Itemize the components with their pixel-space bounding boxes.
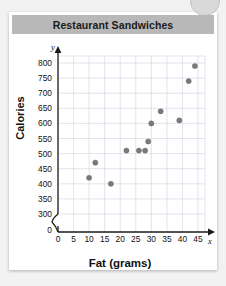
y-axis-label: Calories bbox=[14, 78, 26, 158]
plot-svg: 3003504004505005506006507007508000510152… bbox=[0, 0, 226, 286]
y-tick-label: 300 bbox=[38, 209, 52, 219]
data-point bbox=[143, 148, 148, 153]
y-tick-label: 550 bbox=[38, 134, 52, 144]
y-axis-letter: y bbox=[50, 42, 55, 52]
x-tick-label: 40 bbox=[178, 234, 188, 244]
x-tick-label: 5 bbox=[71, 234, 76, 244]
y-tick-label: 700 bbox=[38, 88, 52, 98]
axes-layer bbox=[52, 46, 215, 235]
data-point bbox=[192, 63, 197, 68]
data-point bbox=[136, 148, 141, 153]
x-tick-label: 45 bbox=[193, 234, 203, 244]
x-tick-label: 25 bbox=[131, 234, 141, 244]
tick-labels-layer: 3003504004505005506006507007508000510152… bbox=[38, 42, 212, 246]
x-tick-label: 30 bbox=[147, 234, 157, 244]
page-root: Restaurant Sandwiches 300350400450500550… bbox=[0, 0, 226, 286]
data-point bbox=[87, 175, 92, 180]
x-tick-label: 20 bbox=[116, 234, 126, 244]
y-tick-label: 750 bbox=[38, 73, 52, 83]
data-point bbox=[124, 148, 129, 153]
x-tick-label: 10 bbox=[84, 234, 94, 244]
data-point bbox=[149, 121, 154, 126]
y-tick-label: 600 bbox=[38, 118, 52, 128]
data-points-layer bbox=[87, 63, 198, 186]
y-tick-label: 650 bbox=[38, 103, 52, 113]
x-tick-label: 0 bbox=[56, 234, 61, 244]
x-tick-label: 15 bbox=[100, 234, 110, 244]
data-point bbox=[93, 160, 98, 165]
x-tick-label: 35 bbox=[162, 234, 172, 244]
y-tick-label: 350 bbox=[38, 194, 52, 204]
data-point bbox=[108, 181, 113, 186]
data-point bbox=[146, 139, 151, 144]
x-axis-label: Fat (grams) bbox=[40, 257, 200, 269]
scatter-plot: 3003504004505005506006507007508000510152… bbox=[0, 0, 226, 286]
y-tick-label: 450 bbox=[38, 164, 52, 174]
y-tick-label: 400 bbox=[38, 179, 52, 189]
y-tick-label: 800 bbox=[38, 58, 52, 68]
y-tick-label: 500 bbox=[38, 149, 52, 159]
data-point bbox=[186, 79, 191, 84]
grid-layer bbox=[58, 56, 205, 232]
data-point bbox=[177, 118, 182, 123]
data-point bbox=[158, 109, 163, 114]
x-axis-letter: x bbox=[207, 236, 212, 246]
y-axis-break-label: 0 bbox=[47, 225, 52, 235]
